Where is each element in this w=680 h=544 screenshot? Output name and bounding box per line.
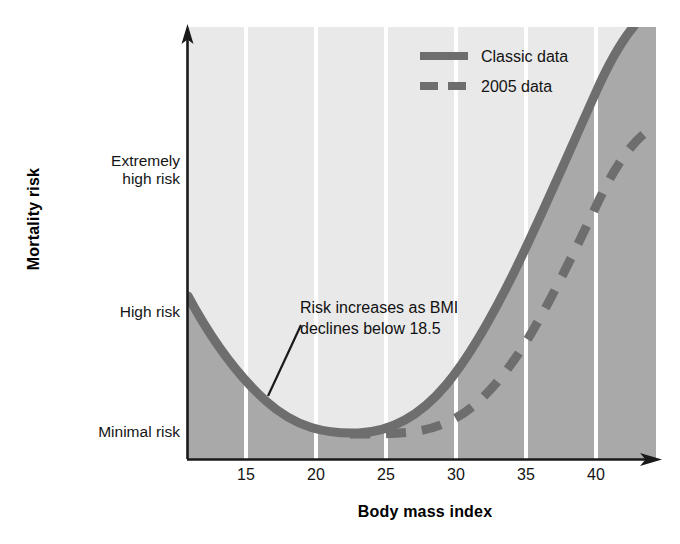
annotation-text: Risk increases as BMI declines below 18.… xyxy=(300,297,570,339)
x-tick-label-15: 15 xyxy=(216,466,276,484)
y-tick-label-minimal-risk: Minimal risk xyxy=(20,423,180,441)
chart-plot-area xyxy=(0,0,680,544)
legend-label-classic-data: Classic data xyxy=(481,48,568,66)
x-axis-title: Body mass index xyxy=(190,503,660,521)
y-tick-label-high-risk: High risk xyxy=(20,303,180,321)
y-tick-label-extremely-high-risk: Extremely high risk xyxy=(20,152,180,188)
x-tick-label-20: 20 xyxy=(286,466,346,484)
x-tick-label-25: 25 xyxy=(356,466,416,484)
x-tick-label-35: 35 xyxy=(496,466,556,484)
legend-swatch-classic-data xyxy=(420,52,468,60)
chart-figure: Mortality risk Body mass index Extremely… xyxy=(0,0,680,544)
legend-label-2005-data: 2005 data xyxy=(481,78,552,96)
x-tick-label-30: 30 xyxy=(426,466,486,484)
x-tick-label-40: 40 xyxy=(566,466,626,484)
